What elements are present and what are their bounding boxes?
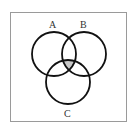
label-b: B [80,20,87,30]
label-c: C [64,109,71,119]
label-a: A [49,20,56,30]
circle-b [62,32,106,76]
